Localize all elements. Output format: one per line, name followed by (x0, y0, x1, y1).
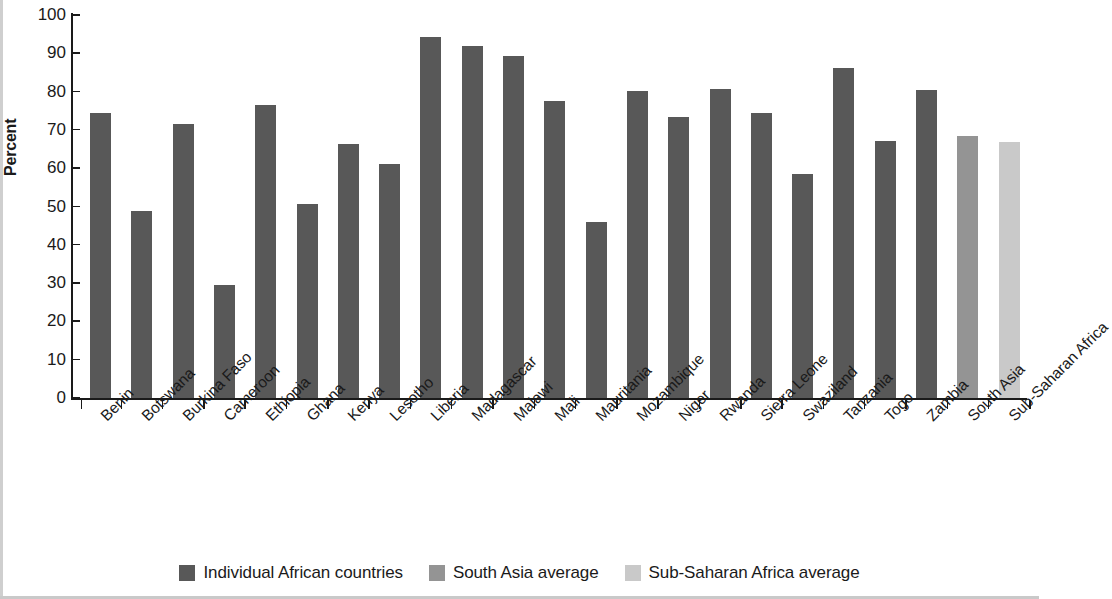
y-axis-tick-label: 0 (32, 389, 66, 406)
legend-entry: South Asia average (429, 563, 599, 583)
y-axis-tick-label: 40 (32, 236, 66, 253)
legend-entry: Individual African countries (179, 563, 402, 583)
x-axis-tick-mark (81, 400, 83, 409)
bar (90, 113, 111, 398)
y-axis-tick-label: 20 (32, 312, 66, 329)
legend-swatch-icon (429, 565, 445, 581)
bar (916, 90, 937, 398)
y-axis-tick-label: 30 (32, 274, 66, 291)
bar (751, 113, 772, 398)
bar (833, 68, 854, 398)
bar (999, 142, 1020, 398)
y-axis-tick-label: 50 (32, 198, 66, 215)
bar (255, 105, 276, 398)
legend-entry: Sub-Saharan Africa average (625, 563, 860, 583)
bar (420, 37, 441, 398)
bar (338, 144, 359, 398)
bar (957, 136, 978, 398)
y-axis-tick-label: 90 (32, 44, 66, 61)
y-axis-tick-label: 80 (32, 83, 66, 100)
bar (668, 117, 689, 399)
bar (710, 89, 731, 398)
bar (297, 204, 318, 398)
y-axis-tick-label: 60 (32, 159, 66, 176)
bar (875, 141, 896, 398)
chart-legend: Individual African countriesSouth Asia a… (0, 563, 1039, 583)
bar (462, 46, 483, 398)
bar (503, 56, 524, 398)
bar-series-container (71, 15, 1027, 398)
bar (379, 164, 400, 398)
y-axis-tick-label: 10 (32, 351, 66, 368)
legend-label: Sub-Saharan Africa average (649, 563, 860, 583)
legend-swatch-icon (625, 565, 641, 581)
legend-label: South Asia average (453, 563, 599, 583)
bar (586, 222, 607, 398)
y-axis-tick-label: 70 (32, 121, 66, 138)
y-axis-title: Percent (2, 56, 24, 176)
legend-swatch-icon (179, 565, 195, 581)
bar (627, 91, 648, 398)
bar (544, 101, 565, 398)
bar (131, 211, 152, 398)
y-axis-tick-label: 100 (32, 6, 66, 23)
bar (173, 124, 194, 398)
legend-label: Individual African countries (203, 563, 402, 583)
y-axis-tick-labels: 0102030405060708090100 (22, 0, 66, 420)
